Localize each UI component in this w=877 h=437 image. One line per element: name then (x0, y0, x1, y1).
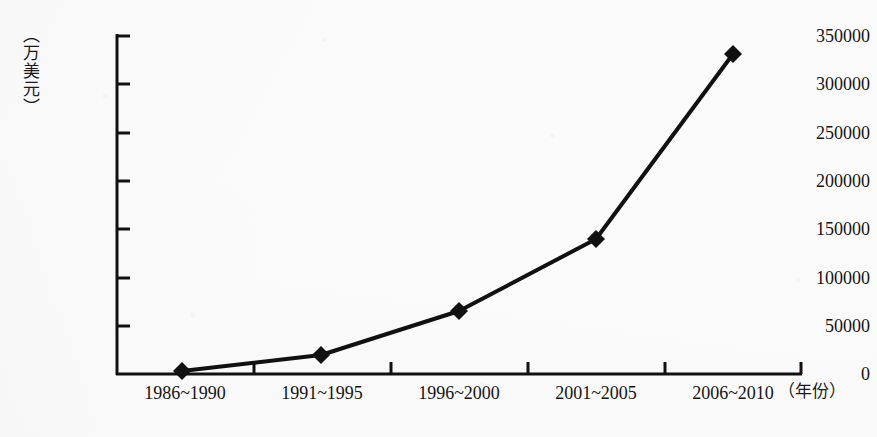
y-axis (117, 34, 130, 375)
data-point-markers (173, 45, 742, 380)
data-point-marker-1991-1995 (312, 346, 330, 364)
x-axis-ticks (254, 362, 801, 374)
data-point-marker-1996-2000 (450, 302, 468, 320)
data-series-line (182, 54, 733, 371)
chart-plot-area (0, 0, 877, 437)
data-point-marker-1986-1990 (173, 362, 191, 380)
chart-page: （万美元） 350000 300000 250000 200000 150000… (0, 0, 877, 437)
y-axis-ticks (117, 36, 130, 326)
